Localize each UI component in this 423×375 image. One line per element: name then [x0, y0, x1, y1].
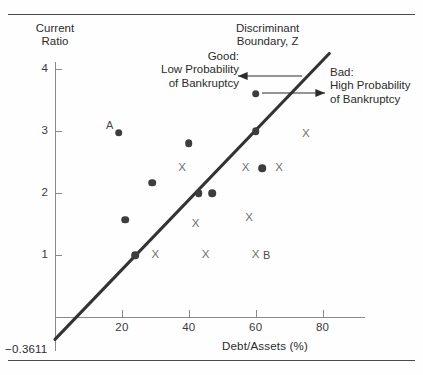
data-point-dot-s0-5 — [195, 189, 203, 197]
data-point-dot-s0-8 — [252, 127, 260, 135]
annotation-boundary-line-1: Boundary, Z — [236, 35, 299, 48]
annotation-good-line-2: of Bankruptcy — [123, 77, 239, 90]
annotation-boundary-line-0: Discriminant — [236, 22, 299, 35]
discriminant-boundary-line — [55, 54, 329, 340]
data-point-x-s1-8: X — [252, 249, 260, 261]
annotation-discriminant-boundary: DiscriminantBoundary, Z — [236, 22, 299, 49]
data-point-x-s1-6: X — [275, 162, 283, 174]
data-point-label-B: B — [263, 250, 270, 261]
data-point-dot-s0-7 — [252, 90, 260, 98]
data-point-dot-s0-9 — [259, 164, 267, 172]
annotation-good-line-1: Low Probability — [123, 63, 239, 76]
data-point-x-s1-0: X — [152, 249, 160, 261]
data-point-dot-s0-0 — [115, 129, 123, 137]
annotation-good-region: Good:Low Probabilityof Bankruptcy — [123, 50, 239, 90]
data-point-x-s1-4: X — [242, 162, 250, 174]
data-point-dot-s0-6 — [208, 189, 216, 197]
annotation-good-line-0: Good: — [123, 50, 239, 63]
annotation-bad-line-2: of Bankruptcy — [330, 93, 411, 106]
scatter-plot-area: CurrentRatio Debt/Assets (%) −0.3611 123… — [0, 0, 423, 375]
data-point-x-s1-5: X — [245, 212, 253, 224]
data-point-dot-s0-3 — [132, 251, 140, 259]
data-point-dot-s0-4 — [185, 140, 193, 148]
data-point-x-s1-3: X — [202, 249, 210, 261]
data-point-x-s1-7: X — [302, 128, 310, 140]
data-point-label-A: A — [106, 119, 113, 130]
figure-container: CurrentRatio Debt/Assets (%) −0.3611 123… — [0, 0, 423, 375]
annotation-bad-line-1: High Probability — [330, 79, 411, 92]
data-point-dot-s0-1 — [148, 179, 156, 187]
annotation-bad-region: Bad:High Probabilityof Bankruptcy — [330, 66, 411, 106]
data-point-dot-s0-2 — [121, 216, 129, 224]
annotation-bad-line-0: Bad: — [330, 66, 411, 79]
data-point-x-s1-1: X — [178, 162, 186, 174]
data-point-x-s1-2: X — [192, 218, 200, 230]
